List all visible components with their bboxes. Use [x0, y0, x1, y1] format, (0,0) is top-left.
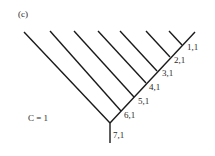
panel-label: (c): [18, 9, 28, 19]
leaf-edge-2: [146, 31, 170, 57]
leaf-edge-7: [24, 32, 110, 123]
leaf-edge-5: [74, 31, 134, 97]
node-label-4: 4,1: [149, 82, 160, 92]
leaf-edge-1: [169, 31, 182, 45]
c-annotation: C = 1: [28, 113, 48, 123]
spine-edge: [110, 32, 195, 123]
leaf-edge-4: [98, 31, 146, 83]
node-label-5: 5,1: [138, 96, 149, 106]
node-label-2: 2,1: [174, 55, 185, 65]
node-label-7: 7,1: [113, 130, 124, 140]
node-label-1: 1,1: [187, 42, 198, 52]
node-label-6: 6,1: [124, 110, 135, 120]
node-label-3: 3,1: [162, 68, 173, 78]
caterpillar-tree-diagram: (c) 1,1 2,1 3,1 4,1 5,1 6,1 7,1 C = 1: [0, 0, 215, 156]
